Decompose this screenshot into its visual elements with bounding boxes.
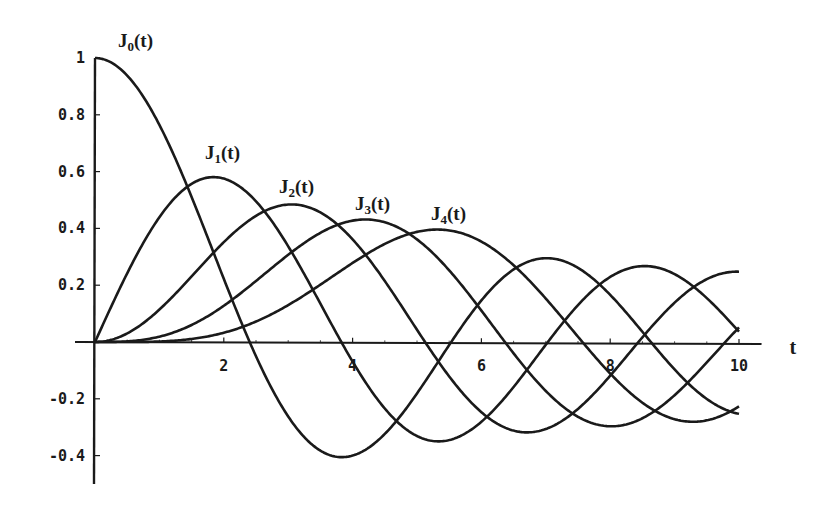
curve-labels: J0(t)J1(t)J2(t)J3(t)J4(t) [118,30,466,227]
y-tick-label: 1 [76,49,85,67]
label-j4: J4(t) [431,203,466,227]
x-axis-label: t [790,336,797,358]
y-tick-label: 0.8 [58,106,85,124]
x-tick-label: 2 [219,357,228,375]
label-j3: J3(t) [355,193,390,217]
x-tick-label: 10 [730,357,748,375]
x-tick-label: 6 [477,357,486,375]
label-j0: J0(t) [118,30,153,54]
label-j1: J1(t) [205,142,240,166]
y-axis-line [94,58,95,484]
y-tick-label: 0.4 [58,219,85,237]
curve-j0 [95,58,739,457]
label-j2: J2(t) [279,176,314,200]
y-tick-label: 0.6 [58,163,85,181]
y-tick-label: -0.4 [49,447,85,465]
bessel-function-chart: 246810t10.80.60.40.2-0.2-0.4 J0(t)J1(t)J… [0,0,817,508]
y-tick-label: 0.2 [58,276,85,294]
axes: 246810t10.80.60.40.2-0.2-0.4 [49,49,797,484]
y-tick-label: -0.2 [49,390,85,408]
curves [95,58,739,457]
x-axis-line [75,342,762,344]
